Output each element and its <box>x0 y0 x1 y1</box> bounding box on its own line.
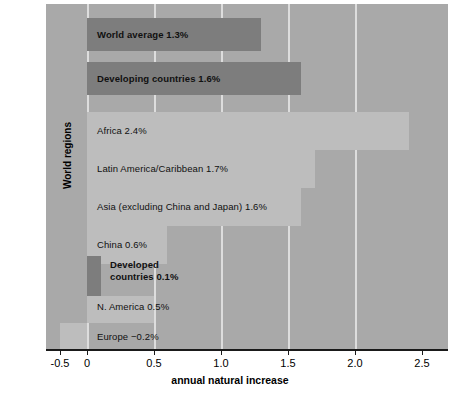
x-tick-label-2.0: 2.0 <box>332 357 378 369</box>
x-tick-label-1.0: 1.0 <box>198 357 244 369</box>
x-tick-1.5 <box>288 349 289 355</box>
gridline-2.0 <box>355 4 357 349</box>
bar-label-asia: Asia (excluding China and Japan) 1.6% <box>97 201 267 213</box>
x-tick-neg-0.5 <box>60 349 61 355</box>
bar-label-developed-countries-line1: Developed <box>110 259 230 271</box>
bar-label-latin-america-caribbean: Latin America/Caribbean 1.7% <box>97 163 228 175</box>
x-tick-0 <box>87 349 88 355</box>
y-axis-title: World regions <box>62 111 73 201</box>
x-tick-2.0 <box>355 349 356 355</box>
x-tick-0.5 <box>154 349 155 355</box>
x-tick-label-1.5: 1.5 <box>265 357 311 369</box>
x-axis-title: annual natural increase <box>0 374 460 386</box>
bar-label-world-average: World average 1.3% <box>97 29 188 41</box>
x-axis-line <box>46 349 448 351</box>
x-tick-label-0: 0 <box>64 357 110 369</box>
bar-label-developing-countries: Developing countries 1.6% <box>97 73 220 85</box>
bar-developed-countries <box>87 256 101 296</box>
bar-label-china: China 0.6% <box>97 239 147 251</box>
bar-label-n-america: N. America 0.5% <box>97 301 169 313</box>
bar-label-africa: Africa 2.4% <box>97 125 147 137</box>
x-tick-2.5 <box>422 349 423 355</box>
bar-label-europe: Europe −0.2% <box>97 331 159 343</box>
x-tick-label-0.5: 0.5 <box>131 357 177 369</box>
bar-chart: World average 1.3% Developing countries … <box>0 0 460 402</box>
x-tick-1.0 <box>221 349 222 355</box>
bar-label-developed-countries-line2: countries 0.1% <box>110 271 230 283</box>
plot-area: World average 1.3% Developing countries … <box>46 4 448 349</box>
bar-europe <box>60 323 87 349</box>
x-tick-label-2.5: 2.5 <box>399 357 445 369</box>
